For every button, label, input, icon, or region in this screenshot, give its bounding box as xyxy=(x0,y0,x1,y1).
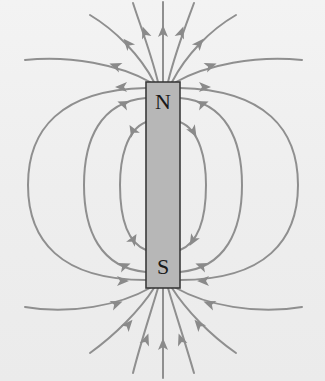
field-line-top-r1 xyxy=(168,3,194,82)
arrow-icon xyxy=(125,122,140,137)
field-line-loop-right-inner xyxy=(180,122,206,250)
arrow-icon xyxy=(116,97,131,111)
field-line-loop-left-mid xyxy=(84,98,146,272)
arrow-icon xyxy=(117,276,129,286)
arrow-icon xyxy=(196,97,211,111)
field-line-top-r3 xyxy=(176,59,302,82)
field-line-loop-right-mid xyxy=(180,98,242,272)
field-line-top-l2 xyxy=(90,15,154,82)
field-line-loop-left-inner xyxy=(120,122,146,250)
south-pole-label: S xyxy=(146,256,180,278)
arrow-icon xyxy=(120,35,135,51)
field-line-loop-right-outer xyxy=(180,88,298,280)
arrow-icon xyxy=(197,276,209,286)
field-line-bot-l2 xyxy=(90,288,154,353)
magnetic-field-diagram: N S xyxy=(0,0,325,381)
field-line-bot-l3 xyxy=(25,288,150,310)
field-line-top-r2 xyxy=(172,15,236,82)
north-pole-label: N xyxy=(146,91,180,113)
field-line-loop-left-outer xyxy=(28,88,146,280)
field-line-bot-r3 xyxy=(176,288,302,310)
field-line-bot-r2 xyxy=(172,288,236,353)
field-line-top-l1 xyxy=(133,3,158,82)
arrow-icon xyxy=(191,316,206,332)
field-line-top-l3 xyxy=(25,59,150,82)
field-lines-layer xyxy=(0,0,325,381)
